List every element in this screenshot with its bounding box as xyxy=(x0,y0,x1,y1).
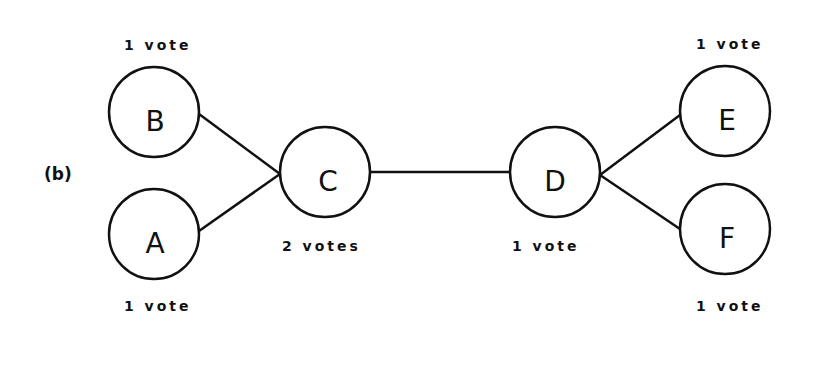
panel-label: (b) xyxy=(44,164,72,184)
edge-d-e xyxy=(600,115,680,175)
node-e-label: E xyxy=(718,104,736,137)
node-d-label: D xyxy=(544,165,566,198)
node-b-label: B xyxy=(145,105,164,138)
network-diagram: B A C D E F 1 vote 1 vote 2 votes 1 vote… xyxy=(0,0,820,377)
node-c-label: C xyxy=(318,165,338,198)
edge-d-f xyxy=(600,175,680,229)
vote-label-a: 1 vote xyxy=(124,298,192,314)
vote-label-b: 1 vote xyxy=(124,37,192,53)
vote-label-c: 2 votes xyxy=(282,238,361,254)
vote-label-f: 1 vote xyxy=(696,298,764,314)
vote-label-e: 1 vote xyxy=(696,36,764,52)
node-a-label: A xyxy=(145,227,164,260)
vote-label-d: 1 vote xyxy=(512,238,580,254)
edge-a-c xyxy=(199,174,280,231)
edge-b-c xyxy=(199,114,280,174)
edges xyxy=(199,114,680,231)
node-f-label: F xyxy=(719,222,735,255)
